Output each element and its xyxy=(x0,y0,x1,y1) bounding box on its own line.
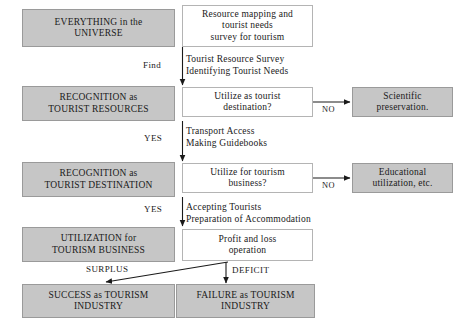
action-box-resource-mapping: Resource mapping and tourist needs surve… xyxy=(182,5,313,47)
edge-label-no-2: NO xyxy=(322,181,335,190)
decision-line-1: Utilize as tourist xyxy=(214,91,280,102)
stage-line-1: RECOGNITION as xyxy=(44,168,152,179)
edge-label-surplus: SURPLUS xyxy=(86,264,128,274)
edge-label-no-1: NO xyxy=(322,105,335,114)
stage-box-success-tourism-industry: SUCCESS as TOURISM INDUSTRY xyxy=(22,284,175,318)
stage-line-2: INDUSTRY xyxy=(196,301,294,312)
action-line-3: survey for tourism xyxy=(202,32,293,43)
edge-label-deficit: DEFICIT xyxy=(232,265,269,275)
decision-line-1: Utilize for tourism xyxy=(210,167,285,178)
decision-line-2: business? xyxy=(210,178,285,189)
stage-line-1: SUCCESS as TOURISM xyxy=(49,290,149,301)
outcome-line-2: utilization, etc. xyxy=(372,178,432,189)
action-line-2: operation xyxy=(219,245,277,256)
decision-box-utilize-as-tourist-destination: Utilize as tourist destination? xyxy=(182,87,313,117)
action-box-profit-and-loss: Profit and loss operation xyxy=(182,229,313,261)
action-line-1: Resource mapping and xyxy=(202,9,293,20)
stage-line-2: UNIVERSE xyxy=(55,28,143,39)
note-tourist-resource-survey: Tourist Resource Survey Identifying Tour… xyxy=(186,54,288,77)
stage-box-everything-universe: EVERYTHING in the UNIVERSE xyxy=(22,9,175,47)
stage-line-2: TOURISM BUSINESS xyxy=(52,245,145,256)
action-line-2: tourist needs xyxy=(202,20,293,31)
action-line-1: Profit and loss xyxy=(219,234,277,245)
note-transport-access: Transport Access Making Guidebooks xyxy=(186,126,267,149)
outcome-line-1: Scientific xyxy=(377,91,429,102)
stage-box-recognition-tourist-destination: RECOGNITION as TOURIST DESTINATION xyxy=(22,162,175,197)
outcome-line-2: preservation. xyxy=(377,102,429,113)
stage-line-2: INDUSTRY xyxy=(49,301,149,312)
stage-line-2: TOURIST RESOURCES xyxy=(48,104,148,115)
stage-box-failure-tourism-industry: FAILURE as TOURISM INDUSTRY xyxy=(176,284,315,318)
stage-line-1: RECOGNITION as xyxy=(48,92,148,103)
decision-line-2: destination? xyxy=(214,102,280,113)
stage-line-1: FAILURE as TOURISM xyxy=(196,290,294,301)
edge-label-find: Find xyxy=(143,60,161,70)
flowchart-canvas: EVERYTHING in the UNIVERSE RECOGNITION a… xyxy=(0,0,467,319)
stage-line-2: TOURIST DESTINATION xyxy=(44,180,152,191)
note-accepting-tourists: Accepting Tourists Preparation of Accomm… xyxy=(186,202,311,225)
outcome-box-scientific-preservation: Scientific preservation. xyxy=(352,87,453,117)
edge-label-yes-1: YES xyxy=(144,133,162,143)
stage-box-utilization-tourism-business: UTILIZATION for TOURISM BUSINESS xyxy=(22,227,175,262)
stage-line-1: EVERYTHING in the xyxy=(55,17,143,28)
outcome-line-1: Educational xyxy=(372,167,432,178)
stage-line-1: UTILIZATION for xyxy=(52,233,145,244)
decision-box-utilize-for-tourism-business: Utilize for tourism business? xyxy=(182,163,313,193)
outcome-box-educational-utilization: Educational utilization, etc. xyxy=(352,163,453,193)
stage-box-recognition-tourist-resources: RECOGNITION as TOURIST RESOURCES xyxy=(22,86,175,121)
edge-label-yes-2: YES xyxy=(144,204,162,214)
